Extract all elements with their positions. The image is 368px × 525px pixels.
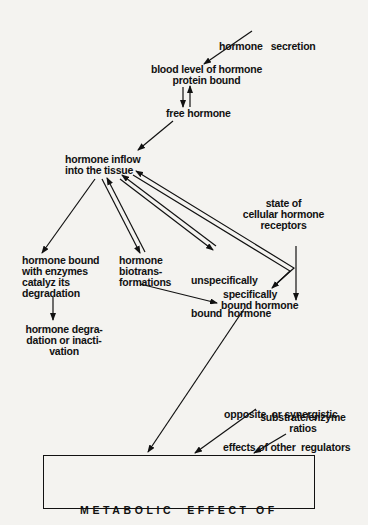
label-line: hormone secretion bbox=[219, 41, 316, 52]
label-line: ratios bbox=[258, 423, 348, 434]
label-line: receptors bbox=[236, 220, 331, 231]
label-line: effects of other regulators bbox=[223, 442, 350, 453]
node-bound-with-enzymes: hormone bound with enzymes catalyz its d… bbox=[22, 255, 99, 299]
label-line: unspecifically bbox=[191, 275, 271, 286]
label-line: into the tissue bbox=[65, 165, 140, 176]
node-hormone-inflow: hormone inflow into the tissue bbox=[65, 154, 140, 176]
node-receptor-state: state of cellular hormone receptors bbox=[236, 198, 331, 231]
node-degradation: hormone degra- dation or inacti- vation bbox=[25, 324, 103, 357]
arrow-biotrans-to-inflow bbox=[107, 178, 145, 252]
node-blood-level: blood level of hormone protein bound bbox=[144, 64, 269, 86]
label-line: formations bbox=[119, 277, 171, 288]
node-hormone-secretion: hormone secretion bbox=[219, 19, 316, 63]
node-free-hormone: free hormone bbox=[166, 108, 231, 119]
arrow-inflow-to-enzymes bbox=[42, 179, 95, 253]
metabolic-effect-box: METABOLIC EFFECT OF HORMONE bbox=[43, 455, 315, 509]
label-line: vation bbox=[25, 346, 103, 357]
label-line: protein bound bbox=[144, 75, 269, 86]
arrow-free-to-inflow bbox=[138, 121, 173, 150]
node-specifically-bound: specifically bound hormone bbox=[221, 289, 298, 311]
label-line: bound hormone bbox=[221, 300, 298, 311]
label-line: free hormone bbox=[166, 108, 231, 119]
node-substrate-enzyme-ratios: substrate/enzyme ratios bbox=[258, 412, 348, 434]
box-title-line: METABOLIC EFFECT OF bbox=[44, 501, 314, 519]
node-biotransformations: hormone biotrans- formations bbox=[119, 255, 171, 288]
label-line: degradation bbox=[22, 288, 99, 299]
